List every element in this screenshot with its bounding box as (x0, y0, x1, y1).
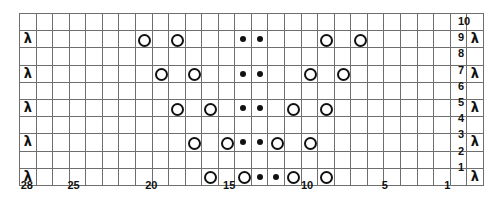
cell-blank[interactable] (36, 151, 53, 168)
cell-blank[interactable] (301, 117, 318, 134)
cell-blank[interactable] (384, 48, 401, 65)
cell-blank[interactable] (152, 48, 169, 65)
cell-blank[interactable] (400, 31, 417, 48)
cell-blank[interactable] (53, 82, 70, 99)
cell-yarn-over[interactable] (318, 31, 335, 48)
cell-blank[interactable] (86, 117, 103, 134)
cell-blank[interactable] (102, 14, 119, 31)
cell-blank[interactable] (202, 48, 219, 65)
cell-blank[interactable] (202, 117, 219, 134)
cell-blank[interactable] (318, 82, 335, 99)
cell-blank[interactable] (367, 31, 384, 48)
cell-blank[interactable] (53, 117, 70, 134)
cell-blank[interactable] (384, 99, 401, 116)
cell-blank[interactable] (86, 99, 103, 116)
cell-blank[interactable] (218, 65, 235, 82)
cell-blank[interactable] (434, 151, 451, 168)
cell-blank[interactable] (202, 31, 219, 48)
cell-blank[interactable] (202, 14, 219, 31)
cell-blank[interactable] (119, 99, 136, 116)
cell-blank[interactable] (185, 82, 202, 99)
cell-blank[interactable] (53, 151, 70, 168)
cell-blank[interactable] (400, 48, 417, 65)
cell-blank[interactable] (400, 117, 417, 134)
cell-blank[interactable] (202, 82, 219, 99)
cell-blank[interactable] (400, 82, 417, 99)
cell-blank[interactable] (69, 14, 86, 31)
cell-blank[interactable] (20, 48, 37, 65)
cell-blank[interactable] (69, 48, 86, 65)
cell-blank[interactable] (251, 82, 268, 99)
cell-blank[interactable] (434, 82, 451, 99)
cell-blank[interactable] (318, 134, 335, 151)
cell-blank[interactable] (301, 151, 318, 168)
cell-blank[interactable] (185, 31, 202, 48)
cell-blank[interactable] (285, 65, 302, 82)
cell-blank[interactable] (119, 14, 136, 31)
cell-blank[interactable] (351, 134, 368, 151)
cell-blank[interactable] (169, 151, 186, 168)
cell-blank[interactable] (417, 31, 434, 48)
cell-blank[interactable] (152, 99, 169, 116)
cell-blank[interactable] (20, 82, 37, 99)
cell-yarn-over[interactable] (185, 134, 202, 151)
cell-blank[interactable] (202, 151, 219, 168)
cell-purl[interactable] (251, 65, 268, 82)
cell-blank[interactable] (417, 14, 434, 31)
cell-blank[interactable] (400, 65, 417, 82)
cell-blank[interactable] (434, 134, 451, 151)
cell-blank[interactable] (119, 117, 136, 134)
cell-blank[interactable] (36, 48, 53, 65)
cell-blank[interactable] (285, 151, 302, 168)
cell-yarn-over[interactable] (202, 99, 219, 116)
cell-yarn-over[interactable] (135, 31, 152, 48)
cell-blank[interactable] (69, 31, 86, 48)
cell-blank[interactable] (218, 117, 235, 134)
cell-blank[interactable] (351, 151, 368, 168)
cell-blank[interactable] (119, 48, 136, 65)
cell-blank[interactable] (36, 14, 53, 31)
cell-blank[interactable] (86, 151, 103, 168)
cell-blank[interactable] (119, 31, 136, 48)
cell-blank[interactable] (318, 117, 335, 134)
cell-blank[interactable] (417, 134, 434, 151)
cell-blank[interactable] (53, 48, 70, 65)
cell-blank[interactable] (218, 99, 235, 116)
cell-blank[interactable] (301, 99, 318, 116)
cell-decrease[interactable]: λ (20, 134, 37, 151)
cell-yarn-over[interactable] (301, 65, 318, 82)
cell-blank[interactable] (285, 117, 302, 134)
cell-blank[interactable] (334, 151, 351, 168)
cell-yarn-over[interactable] (334, 65, 351, 82)
cell-yarn-over[interactable] (185, 65, 202, 82)
cell-blank[interactable] (135, 151, 152, 168)
cell-blank[interactable] (202, 65, 219, 82)
cell-blank[interactable] (367, 117, 384, 134)
cell-blank[interactable] (251, 48, 268, 65)
cell-blank[interactable] (351, 117, 368, 134)
cell-blank[interactable] (434, 48, 451, 65)
cell-purl[interactable] (235, 65, 252, 82)
cell-yarn-over[interactable] (218, 134, 235, 151)
cell-blank[interactable] (235, 14, 252, 31)
cell-blank[interactable] (400, 151, 417, 168)
cell-blank[interactable] (434, 14, 451, 31)
cell-blank[interactable] (152, 134, 169, 151)
cell-blank[interactable] (351, 48, 368, 65)
cell-blank[interactable] (268, 117, 285, 134)
cell-blank[interactable] (301, 82, 318, 99)
cell-blank[interactable] (301, 48, 318, 65)
cell-blank[interactable] (400, 134, 417, 151)
cell-blank[interactable] (119, 65, 136, 82)
cell-blank[interactable] (417, 82, 434, 99)
cell-blank[interactable] (218, 82, 235, 99)
cell-decrease[interactable]: λ (20, 65, 37, 82)
cell-blank[interactable] (351, 14, 368, 31)
cell-blank[interactable] (20, 14, 37, 31)
cell-blank[interactable] (53, 14, 70, 31)
cell-blank[interactable] (135, 99, 152, 116)
cell-purl[interactable] (235, 99, 252, 116)
cell-blank[interactable] (53, 99, 70, 116)
cell-blank[interactable] (285, 31, 302, 48)
cell-blank[interactable] (152, 117, 169, 134)
